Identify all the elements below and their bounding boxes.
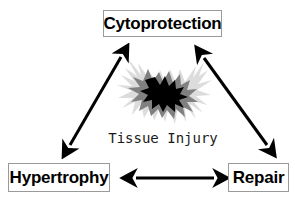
node-cytoprotection-label: Cytoprotection xyxy=(103,14,221,34)
node-hypertrophy-label: Hypertrophy xyxy=(10,168,109,188)
node-repair-label: Repair xyxy=(233,168,285,188)
node-repair[interactable]: Repair xyxy=(228,163,289,192)
node-hypertrophy[interactable]: Hypertrophy xyxy=(8,163,110,192)
center-label-tissue-injury: Tissue Injury xyxy=(108,130,218,146)
node-cytoprotection[interactable]: Cytoprotection xyxy=(103,10,222,37)
diagram-canvas: Cytoprotection Hypertrophy Repair Tissue… xyxy=(0,0,295,198)
